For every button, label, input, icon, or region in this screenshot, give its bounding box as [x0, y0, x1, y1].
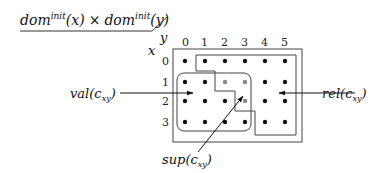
column-labels: 0 1 2 3 4 5	[182, 36, 288, 49]
x-axis-label: x	[148, 43, 156, 58]
svg-text:0: 0	[182, 36, 189, 49]
svg-text:2: 2	[162, 95, 169, 108]
svg-text:dominit(x)×dominit(y): dominit(x)×dominit(y)	[20, 11, 169, 28]
rel-label: rel(cxy)	[322, 86, 367, 103]
svg-text:2: 2	[221, 36, 228, 49]
svg-text:4: 4	[261, 36, 268, 49]
svg-text:3: 3	[241, 36, 248, 49]
sup-label: sup(cxy)	[162, 152, 212, 169]
svg-text:1: 1	[162, 76, 169, 89]
domain-box	[173, 49, 302, 142]
domain-diagram: dominit(x)×dominit(y) y x 0 1 2 3 4 5 0 …	[0, 0, 389, 173]
title-domain-product: dominit(x)×dominit(y)	[20, 11, 169, 31]
svg-text:0: 0	[162, 55, 169, 68]
y-axis-label: y	[159, 30, 168, 45]
svg-text:5: 5	[281, 36, 288, 49]
val-region	[177, 73, 251, 131]
svg-text:3: 3	[162, 116, 169, 129]
val-label: val(cxy)	[70, 86, 116, 103]
row-labels: 0 1 2 3	[162, 55, 169, 129]
svg-text:1: 1	[201, 36, 208, 49]
